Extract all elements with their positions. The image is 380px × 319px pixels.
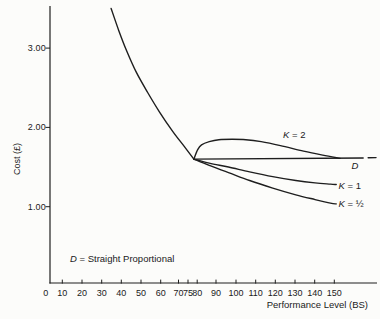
y-axis-ticks [46, 48, 51, 207]
curve-label-d: D [352, 160, 359, 171]
legend-annotation-symbol: D [70, 253, 77, 264]
curve-label-k1: K = 1 [339, 180, 361, 191]
curve-k-1 [194, 159, 336, 184]
curve-label-khalf: K = ½ [339, 198, 364, 209]
curve-label-k2-value: = 2 [289, 129, 305, 140]
y-tick-label: 1.00 [18, 202, 46, 213]
curve-label-k1-value: = 1 [345, 180, 361, 191]
curve-k-2 [194, 139, 340, 159]
curve-label-d-symbol: D [352, 160, 359, 171]
curve-label-k2: K = 2 [283, 129, 305, 140]
x-axis-title: Performance Level (BS) [230, 299, 368, 310]
curve-total-cost-curve [111, 8, 194, 159]
x-tick-label: 150 [321, 288, 347, 298]
legend-annotation-text: = Straight Proportional [77, 253, 174, 264]
y-tick-label: 2.00 [18, 122, 46, 133]
plot-area [0, 0, 380, 319]
y-axis-title: Cost (£) [11, 129, 23, 190]
curve-label-khalf-value: = ½ [345, 198, 364, 209]
curve-k-½ [194, 159, 336, 204]
curves-group [111, 8, 376, 203]
y-tick-label: 3.00 [18, 43, 46, 54]
curve-d-straight-proportional [194, 158, 363, 159]
legend-annotation: D = Straight Proportional [70, 253, 174, 264]
cost-performance-chart: Cost (£) 3.00 2.00 1.00 0 10 20 30 40 50… [0, 0, 380, 319]
